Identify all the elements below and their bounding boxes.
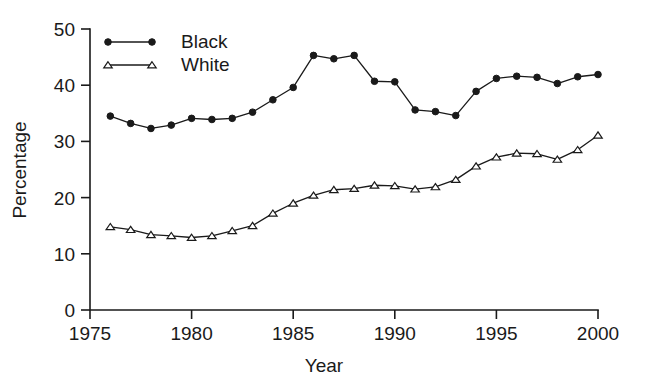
chart-legend: BlackWhite xyxy=(104,31,230,75)
series-white-marker xyxy=(472,163,480,169)
legend-label-white: White xyxy=(181,54,230,75)
x-tick-label: 1990 xyxy=(374,323,416,344)
y-tick-label: 20 xyxy=(54,188,75,209)
legend-entry-black: Black xyxy=(105,31,228,52)
series-black-marker xyxy=(331,55,338,62)
x-tick-label: 1975 xyxy=(69,323,111,344)
series-white-marker xyxy=(594,132,602,138)
legend-black-marker xyxy=(149,39,156,46)
series-black-marker xyxy=(493,75,500,82)
series-black-marker xyxy=(412,107,419,114)
series-black-marker xyxy=(168,122,175,129)
series-black-marker xyxy=(595,71,602,78)
series-black-marker xyxy=(574,73,581,80)
series-black-marker xyxy=(188,115,195,122)
legend-label-black: Black xyxy=(181,31,228,52)
series-black-marker xyxy=(452,112,459,119)
y-tick-label: 50 xyxy=(54,19,75,40)
series-black-marker xyxy=(554,80,561,87)
legend-black-marker xyxy=(105,39,112,46)
y-axis-title: Percentage xyxy=(9,121,30,218)
series-black-marker xyxy=(249,109,256,116)
x-tick-label: 1985 xyxy=(272,323,314,344)
series-black-marker xyxy=(392,79,399,86)
series-black-marker xyxy=(310,52,317,59)
series-black-marker xyxy=(371,78,378,85)
y-tick-label: 10 xyxy=(54,244,75,265)
series-layer xyxy=(106,52,602,240)
series-black-marker xyxy=(270,97,277,104)
x-tick-label: 1980 xyxy=(170,323,212,344)
series-black-marker xyxy=(513,73,520,80)
y-tick-label: 40 xyxy=(54,75,75,96)
series-black-marker xyxy=(534,74,541,81)
x-axis-title: Year xyxy=(305,355,344,376)
series-black-marker xyxy=(290,84,297,91)
y-axis: 01020304050 xyxy=(54,19,90,321)
series-black-marker xyxy=(229,115,236,122)
series-black-marker xyxy=(432,108,439,115)
y-tick-label: 30 xyxy=(54,131,75,152)
series-black-marker xyxy=(127,120,134,127)
x-tick-label: 1995 xyxy=(475,323,517,344)
series-white xyxy=(106,132,602,240)
legend-entry-white: White xyxy=(104,54,230,75)
y-tick-label: 0 xyxy=(64,300,75,321)
series-white-marker xyxy=(269,210,277,216)
line-chart: 01020304050 197519801985199019952000 Bla… xyxy=(0,0,648,382)
chart-container: 01020304050 197519801985199019952000 Bla… xyxy=(0,0,648,382)
x-axis: 197519801985199019952000 xyxy=(69,310,619,344)
x-tick-label: 2000 xyxy=(577,323,619,344)
series-white-marker xyxy=(289,200,297,206)
series-black-marker xyxy=(107,113,114,120)
series-black-marker xyxy=(473,88,480,95)
axis-frame xyxy=(90,29,598,310)
series-black-marker xyxy=(351,52,358,59)
series-black-marker xyxy=(209,116,216,123)
series-black-marker xyxy=(148,125,155,132)
